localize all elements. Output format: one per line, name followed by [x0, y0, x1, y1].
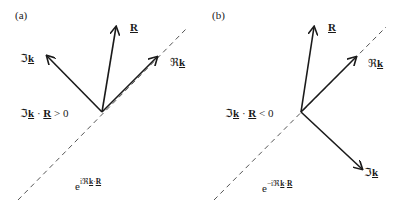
panel-b-R-arrow: [301, 27, 314, 112]
imaginary-part-symbol: ℑ: [225, 107, 233, 119]
panel-a-re-k-label: ℜk: [170, 56, 185, 68]
k-vector-symbol: k: [28, 52, 34, 64]
panel-b-re-k-label: ℜk: [368, 57, 383, 69]
dot-operator: ·: [239, 107, 248, 119]
imaginary-part-symbol: ℑ: [20, 52, 28, 64]
real-part-symbol: ℜ: [170, 56, 179, 68]
k-vector-symbol: k: [179, 56, 185, 68]
real-part-symbol: ℜ: [368, 57, 377, 69]
panel-a-condition: ℑk · R > 0: [20, 107, 68, 119]
panel-b-wave-expression: e−iℜk·R: [262, 182, 292, 194]
imaginary-part-symbol: ℑ: [364, 166, 372, 178]
imaginary-part-symbol: ℑ: [20, 107, 28, 119]
panel-b-im-k-arrow: [301, 112, 362, 169]
panel-a-im-k-arrow: [47, 56, 102, 112]
panel-b-tag: (b): [212, 9, 225, 21]
panel-b-re-k-arrow: [301, 57, 356, 112]
figure: (a) ℑk R ℜk ℑk · R > 0 eiℜk·R (b) R ℜk ℑ…: [0, 0, 397, 212]
diagram-canvas: [0, 0, 397, 212]
panel-b-im-k-label: ℑk: [364, 166, 378, 178]
panel-a-wave-expression: eiℜk·R: [75, 180, 101, 192]
dot-operator: ·: [34, 107, 43, 119]
exponent: iℜk·R: [80, 177, 101, 186]
inequality: > 0: [51, 107, 68, 119]
R-vector-symbol: R: [287, 179, 292, 188]
panel-b-condition: ℑk · R < 0: [225, 107, 273, 119]
panel-a-R-label: R: [130, 21, 138, 33]
k-vector-symbol: k: [372, 166, 378, 178]
panel-a-tag: (a): [15, 9, 27, 21]
panel-a-im-k-label: ℑk: [20, 52, 34, 64]
real-part-symbol: ℜ: [82, 177, 89, 186]
inequality: < 0: [256, 107, 273, 119]
panel-b-R-label: R: [328, 21, 336, 33]
R-vector-symbol: R: [96, 177, 101, 186]
k-vector-symbol: k: [377, 57, 383, 69]
exponent: −iℜk·R: [267, 179, 292, 188]
